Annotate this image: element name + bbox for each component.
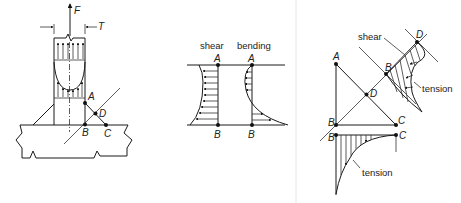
point-d — [94, 112, 98, 116]
bending-label-b: B — [248, 129, 255, 140]
weld-stress-diagram: F T — [0, 0, 461, 203]
label-a: A — [332, 51, 340, 62]
label-rotated-d: D — [416, 29, 423, 40]
point-b — [83, 123, 87, 127]
lower-tension-curve — [336, 135, 396, 194]
base-plate — [16, 125, 132, 158]
shear-label: shear — [200, 40, 224, 51]
label-c: C — [104, 128, 112, 139]
shear-point-a — [216, 63, 220, 67]
uniform-stress-arrows — [58, 43, 83, 59]
stress-distribution-panel: shear bending A A — [187, 40, 288, 140]
point-c — [104, 123, 108, 127]
throat-stress-panel: shear tension A D B C B D tensio — [320, 29, 453, 195]
label-c: C — [398, 115, 406, 126]
shear-arrows — [196, 71, 218, 119]
bending-distribution-curve — [245, 65, 288, 125]
tension-upper-label: tension — [422, 83, 453, 94]
label-d: D — [370, 88, 377, 99]
tension-lower-leader — [353, 160, 360, 168]
left-fillet-weld — [33, 104, 54, 125]
shear-point-b — [216, 123, 220, 127]
bending-point-a — [250, 63, 254, 67]
point-d — [365, 93, 369, 97]
lower-point-c — [394, 133, 398, 137]
point-a — [83, 101, 87, 105]
shear-label-b: B — [214, 129, 221, 140]
tension-lower-label: tension — [362, 167, 393, 178]
thickness-label: T — [98, 21, 105, 32]
tension-arrow-icon — [406, 75, 413, 78]
weld-joint-panel: F T — [16, 4, 132, 158]
bending-label: bending — [237, 40, 271, 51]
shear-distribution-curve — [190, 65, 203, 125]
bending-arrows — [245, 72, 271, 120]
label-lower-c: C — [399, 130, 407, 141]
label-rotated-b: B — [385, 62, 392, 73]
bending-label-a: A — [247, 53, 255, 64]
label-b: B — [328, 117, 335, 128]
shear-leader-line — [384, 38, 405, 55]
label-b: B — [82, 127, 89, 138]
tension-upper-leader — [414, 82, 421, 88]
shear-label: shear — [358, 31, 382, 42]
point-a — [334, 62, 338, 66]
force-label: F — [74, 5, 81, 16]
shear-label-a: A — [213, 53, 221, 64]
label-d: D — [99, 108, 106, 119]
bending-point-b — [250, 123, 254, 127]
label-a: A — [87, 91, 95, 102]
rotated-point-d — [415, 40, 419, 44]
label-lower-b: B — [328, 132, 335, 143]
